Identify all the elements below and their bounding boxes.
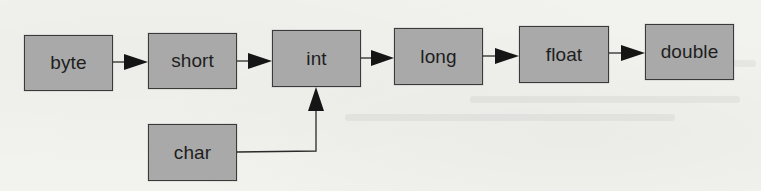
edge-byte-to-short xyxy=(113,54,148,70)
arrowhead-icon xyxy=(371,50,394,66)
node-label-char: char xyxy=(174,143,211,162)
edge-int-to-long xyxy=(361,50,394,66)
node-label-double: double xyxy=(661,42,719,61)
node-byte: byte xyxy=(24,35,113,91)
edge-float-to-double xyxy=(609,45,645,61)
node-label-short: short xyxy=(171,51,214,70)
arrowhead-icon xyxy=(621,45,645,61)
edge-long-to-float xyxy=(483,48,519,64)
arrowhead-icon xyxy=(124,54,148,70)
node-label-long: long xyxy=(420,47,456,66)
node-label-float: float xyxy=(546,45,582,64)
node-label-byte: byte xyxy=(50,53,86,72)
arrowhead-icon xyxy=(308,87,324,111)
arrowhead-icon xyxy=(248,53,272,69)
node-int: int xyxy=(272,30,361,87)
node-char: char xyxy=(148,124,237,181)
edge-char-to-int xyxy=(237,87,324,152)
node-label-int: int xyxy=(306,49,326,68)
edge-short-to-int xyxy=(237,53,272,69)
node-short: short xyxy=(148,33,237,89)
arrowhead-icon xyxy=(495,48,519,64)
diagram-canvas: byte short int long float double char xyxy=(0,0,761,191)
node-float: float xyxy=(519,26,609,83)
node-long: long xyxy=(394,28,483,85)
node-double: double xyxy=(645,24,734,80)
